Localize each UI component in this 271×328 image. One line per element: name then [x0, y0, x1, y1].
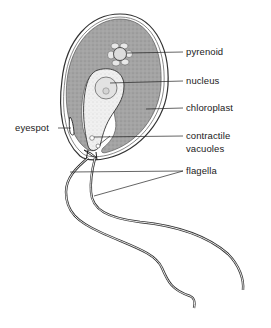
label-flagella: flagella [186, 165, 217, 176]
label-chloroplast: chloroplast [186, 102, 233, 113]
chlamydomonas-diagram [0, 0, 271, 328]
label-eyespot: eyespot [15, 122, 49, 133]
nucleus [95, 77, 117, 99]
label-contractile: contractile [186, 130, 230, 141]
flagella [66, 158, 243, 308]
label-pyrenoid: pyrenoid [186, 46, 223, 57]
label-vacuoles: vacuoles [186, 143, 224, 154]
leader-flagella-2 [94, 171, 183, 196]
leader-flagella-1 [70, 171, 183, 172]
label-nucleus: nucleus [186, 75, 219, 86]
